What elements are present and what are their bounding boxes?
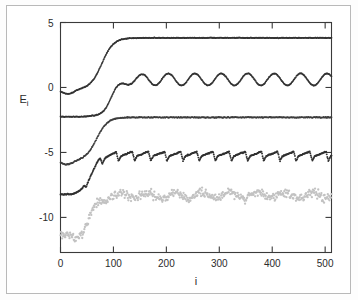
data-point xyxy=(182,160,184,162)
data-point xyxy=(274,198,276,200)
data-point xyxy=(229,155,231,157)
data-point xyxy=(309,194,311,196)
data-point xyxy=(323,202,325,204)
data-point xyxy=(102,61,104,63)
data-point xyxy=(214,193,216,195)
data-point xyxy=(126,190,128,192)
data-point xyxy=(212,152,214,154)
data-point xyxy=(326,153,328,155)
data-point xyxy=(246,156,248,158)
x-tick-label: 100 xyxy=(105,258,122,269)
data-point xyxy=(197,154,199,156)
data-point xyxy=(331,37,333,39)
data-point xyxy=(320,192,322,194)
data-point xyxy=(328,199,330,201)
data-point xyxy=(331,116,333,118)
plot-series-layer xyxy=(59,37,332,243)
y-tick-label: 0 xyxy=(48,82,54,93)
data-point xyxy=(165,156,167,158)
data-point xyxy=(303,199,305,201)
data-point xyxy=(238,194,240,196)
data-point xyxy=(164,152,166,154)
x-tick-label: 500 xyxy=(317,258,334,269)
data-point xyxy=(262,190,264,192)
series-level-1-scatter xyxy=(59,186,332,242)
data-point xyxy=(189,200,191,202)
data-point xyxy=(165,154,167,156)
data-point xyxy=(276,150,278,152)
data-point xyxy=(330,196,332,198)
data-point xyxy=(87,223,89,225)
data-point xyxy=(199,188,201,190)
data-point xyxy=(168,196,170,198)
data-point xyxy=(305,192,307,194)
data-point xyxy=(88,214,90,216)
data-point xyxy=(134,199,136,201)
data-point xyxy=(213,156,215,158)
data-point xyxy=(262,155,264,157)
data-point xyxy=(230,188,232,190)
data-point xyxy=(206,192,208,194)
data-point xyxy=(134,159,136,161)
data-point xyxy=(95,206,97,208)
data-point xyxy=(246,196,248,198)
series-level-2-sawtooth xyxy=(60,150,333,195)
data-point xyxy=(309,150,311,152)
data-point xyxy=(204,196,206,198)
data-point xyxy=(68,237,70,239)
data-point xyxy=(173,189,175,191)
data-point xyxy=(273,194,275,196)
y-tick-label: 5 xyxy=(48,18,54,29)
y-tick-label: -5 xyxy=(45,147,54,158)
data-point xyxy=(279,160,281,162)
data-point xyxy=(266,192,268,194)
data-point xyxy=(75,240,77,242)
data-point xyxy=(288,189,290,191)
y-axis-title: Ei xyxy=(19,93,28,108)
data-point xyxy=(117,157,119,159)
data-point xyxy=(245,199,247,201)
data-point xyxy=(153,194,155,196)
data-point xyxy=(285,196,287,198)
data-point xyxy=(107,201,109,203)
data-point xyxy=(245,152,247,154)
data-point xyxy=(218,193,220,195)
data-point xyxy=(287,192,289,194)
data-point xyxy=(220,194,222,196)
data-point xyxy=(196,194,198,196)
data-point xyxy=(186,197,188,199)
data-point xyxy=(299,196,301,198)
y-tick-label: -10 xyxy=(39,212,54,223)
data-point xyxy=(278,156,280,158)
data-point xyxy=(78,237,80,239)
data-point xyxy=(280,190,282,192)
data-point xyxy=(196,151,198,153)
series-level-4-oscillating xyxy=(60,72,333,117)
data-point xyxy=(90,214,92,216)
x-axis-title: i xyxy=(195,275,197,287)
data-point xyxy=(230,157,232,159)
data-point xyxy=(129,197,131,199)
plot-frame xyxy=(61,23,332,253)
data-point xyxy=(139,198,141,200)
data-point xyxy=(229,153,231,155)
data-point xyxy=(71,236,73,238)
data-point xyxy=(234,192,236,194)
data-point xyxy=(294,155,296,157)
data-point xyxy=(236,192,238,194)
data-point xyxy=(157,193,159,195)
data-point xyxy=(86,184,88,186)
data-point xyxy=(103,58,105,60)
data-point xyxy=(80,234,82,236)
data-point xyxy=(233,198,235,200)
data-point xyxy=(310,154,312,156)
data-point xyxy=(99,197,101,199)
data-point xyxy=(244,202,246,204)
data-point xyxy=(316,198,318,200)
data-point xyxy=(126,192,128,194)
data-point xyxy=(109,198,111,200)
data-point xyxy=(100,160,102,162)
data-point xyxy=(61,237,63,239)
data-point xyxy=(282,193,284,195)
data-point xyxy=(87,181,89,183)
